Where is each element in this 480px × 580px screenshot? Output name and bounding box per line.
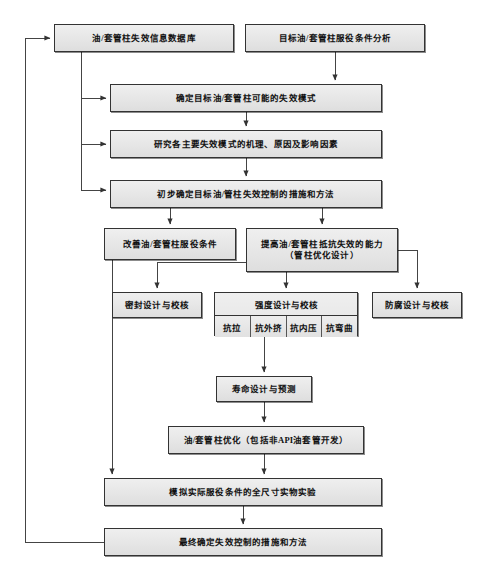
node-service-condition-analysis[interactable]: 目标油/套管柱服役条件分析	[245, 24, 425, 52]
node-corrosion-design-check[interactable]: 防腐设计与校核	[372, 292, 462, 318]
strength-cell-collapse[interactable]: 抗外挤	[251, 316, 287, 337]
strength-design-cells: 抗拉 抗外挤 抗内压 抗弯曲	[215, 315, 357, 337]
node-failure-info-database[interactable]: 油/套管柱失效信息数据库	[54, 24, 234, 52]
node-strength-design-group[interactable]: 强度设计与校核 抗拉 抗外挤 抗内压 抗弯曲	[214, 292, 358, 336]
node-label: 提高油/套管柱抵抗失效的能力 （管柱优化设计）	[261, 239, 383, 260]
node-label: 初步确定目标油/管柱失效控制的措施和方法	[157, 189, 334, 200]
node-label: 目标油/套管柱服役条件分析	[279, 33, 392, 44]
node-improve-service-conditions[interactable]: 改善油/套管柱服役条件	[104, 228, 236, 260]
node-seal-design-check[interactable]: 密封设计与校核	[112, 292, 202, 318]
node-label: 模拟实际服役条件的全尺寸实物实验	[169, 487, 316, 498]
strength-design-header: 强度设计与校核	[215, 293, 357, 315]
node-label: 密封设计与校核	[125, 300, 189, 311]
node-failure-mechanism-study[interactable]: 研究各主要失效模式的机理、原因及影响因素	[110, 130, 382, 158]
node-label: 研究各主要失效模式的机理、原因及影响因素	[154, 139, 338, 150]
node-label: 改善油/套管柱服役条件	[123, 239, 218, 250]
node-improve-failure-resistance[interactable]: 提高油/套管柱抵抗失效的能力 （管柱优化设计）	[246, 228, 398, 272]
edge-resist-to-seal	[157, 262, 246, 288]
node-label: 确定目标油/套管柱可能的失效模式	[176, 93, 317, 104]
node-life-design-prediction[interactable]: 寿命设计与预测	[216, 376, 312, 402]
node-possible-failure-modes[interactable]: 确定目标油/套管柱可能的失效模式	[110, 84, 382, 112]
node-label: 油/套管柱优化（包括非API油套管开发）	[184, 435, 349, 446]
node-final-control-measures[interactable]: 最终确定失效控制的措施和方法	[104, 528, 382, 556]
edge-final-feedback-to-db	[25, 38, 104, 542]
strength-cell-tension[interactable]: 抗拉	[215, 316, 251, 337]
node-string-optimization[interactable]: 油/套管柱优化（包括非API油套管开发）	[168, 426, 364, 454]
edge-resist-to-corrosion	[398, 250, 417, 288]
strength-cell-bending[interactable]: 抗弯曲	[322, 316, 357, 337]
node-full-scale-experiment[interactable]: 模拟实际服役条件的全尺寸实物实验	[104, 478, 382, 506]
node-label: 防腐设计与校核	[385, 300, 449, 311]
node-label: 油/套管柱失效信息数据库	[92, 33, 196, 44]
node-label: 寿命设计与预测	[232, 384, 296, 395]
node-preliminary-control-measures[interactable]: 初步确定目标油/管柱失效控制的措施和方法	[110, 180, 382, 208]
node-label: 最终确定失效控制的措施和方法	[179, 537, 308, 548]
strength-cell-internal-pressure[interactable]: 抗内压	[287, 316, 323, 337]
flowchart-canvas: 油/套管柱失效信息数据库 目标油/套管柱服役条件分析 确定目标油/套管柱可能的失…	[0, 0, 480, 580]
